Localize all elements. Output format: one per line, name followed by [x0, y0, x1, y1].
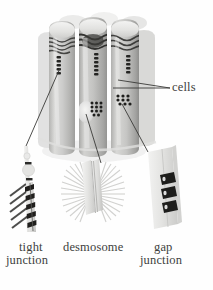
- label-gap-junction-line1: gap: [140, 241, 182, 254]
- desmosome-detail-panel: [61, 159, 125, 222]
- label-desmosome: desmosome: [63, 241, 123, 254]
- label-gap-junction: gap junction: [140, 241, 182, 268]
- cell-junctions-figure: cells tight junction desmosome gap junct…: [0, 0, 213, 290]
- tj-band-lower: [26, 178, 33, 180]
- label-tight-junction-line2: junction: [6, 254, 48, 267]
- cell-cylinder-left: [44, 21, 80, 155]
- tj-band-upper: [25, 162, 32, 164]
- label-tight-junction: tight junction: [6, 241, 48, 268]
- tj-vesicle-1: [24, 153, 30, 159]
- cell-cylinder-middle: [74, 17, 116, 157]
- label-gap-junction-line2: junction: [140, 254, 182, 267]
- cell-highlight-right: [117, 38, 119, 145]
- cell-highlight-middle: [85, 38, 87, 148]
- cell-top-cap-middle: [79, 19, 107, 35]
- gap-junction-plaque-right: [116, 94, 131, 105]
- gap-junction-detail-panel: [148, 145, 182, 229]
- tj-vesicle-2: [23, 164, 35, 176]
- tight-junction-detail-panel: [10, 146, 36, 232]
- cell-top-cap-left: [49, 22, 75, 38]
- label-cells: cells: [172, 81, 196, 94]
- label-tight-junction-line1: tight: [6, 241, 48, 254]
- cell-column-group: [38, 12, 156, 162]
- cell-top-cap-right: [111, 21, 139, 37]
